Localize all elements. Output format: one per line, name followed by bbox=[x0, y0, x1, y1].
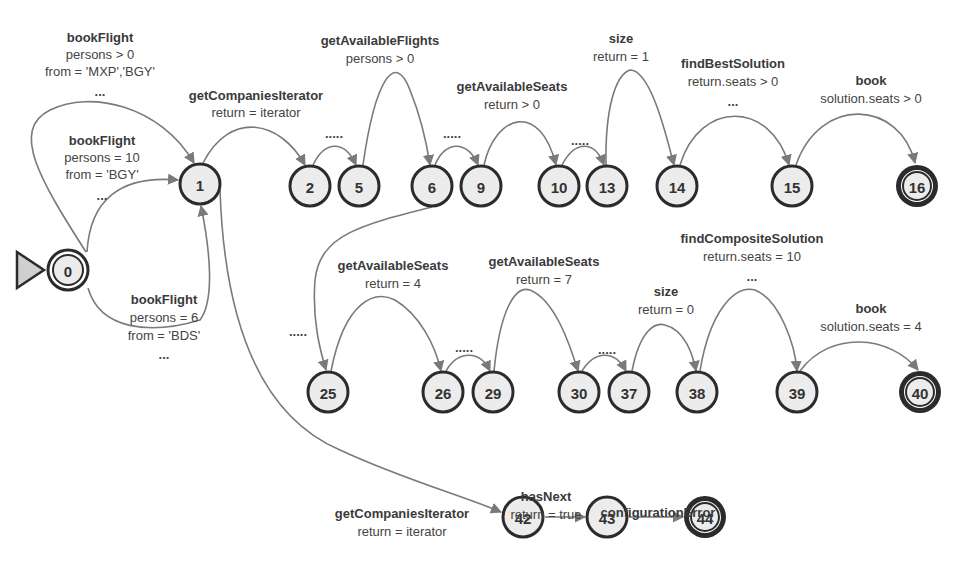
node-label: 40 bbox=[912, 385, 929, 402]
label-line: persons > 0 bbox=[346, 51, 414, 66]
node-label: 16 bbox=[909, 179, 926, 196]
state-node-10: 10 bbox=[539, 166, 579, 206]
label-line: return = iterator bbox=[357, 524, 447, 539]
label-line: return = 1 bbox=[593, 49, 649, 64]
ellipsis-10-13: ..... bbox=[571, 133, 589, 148]
state-node-15: 15 bbox=[772, 166, 812, 206]
ellipsis-30-37: ..... bbox=[598, 342, 616, 357]
label-title: book bbox=[855, 301, 887, 316]
state-node-39: 39 bbox=[777, 372, 817, 412]
state-node-38: 38 bbox=[677, 372, 717, 412]
label-line: persons = 6 bbox=[130, 310, 198, 325]
edge-25-26 bbox=[331, 297, 441, 371]
label-line: ... bbox=[159, 347, 170, 362]
label-line: ... bbox=[747, 269, 758, 284]
node-label: 26 bbox=[435, 385, 452, 402]
state-node-2: 2 bbox=[290, 166, 330, 206]
node-label: 13 bbox=[599, 179, 616, 196]
state-node-14: 14 bbox=[657, 166, 697, 206]
label-title: getCompaniesIterator bbox=[335, 506, 469, 521]
state-node-26: 26 bbox=[423, 372, 463, 412]
edge-14-15 bbox=[680, 116, 789, 165]
label-title: bookFlight bbox=[69, 133, 136, 148]
label-line: return = 4 bbox=[365, 276, 421, 291]
node-label: 39 bbox=[789, 385, 806, 402]
node-label: 2 bbox=[306, 179, 314, 196]
state-node-29: 29 bbox=[473, 372, 513, 412]
label-line: solution.seats = 4 bbox=[820, 319, 922, 334]
state-node-6: 6 bbox=[412, 166, 452, 206]
edge-2-5 bbox=[313, 146, 356, 165]
label-getcompaniesiterator-top: getCompaniesIterator return = iterator bbox=[189, 88, 323, 120]
label-line: persons = 10 bbox=[64, 150, 140, 165]
ellipsis-26-29: ..... bbox=[455, 340, 473, 355]
label-bookflight-mxp: bookFlight persons > 0 from = 'MXP','BGY… bbox=[45, 30, 155, 99]
node-label: 38 bbox=[689, 385, 706, 402]
label-book-gt0: book solution.seats > 0 bbox=[820, 73, 922, 106]
edge-37-38 bbox=[632, 324, 696, 371]
state-node-9: 9 bbox=[461, 166, 501, 206]
state-node-13: 13 bbox=[587, 166, 627, 206]
label-title: book bbox=[855, 73, 887, 88]
node-label: 25 bbox=[320, 385, 337, 402]
label-getavailableseats-gt0: getAvailableSeats return > 0 bbox=[457, 79, 568, 112]
label-title: size bbox=[654, 284, 679, 299]
label-line: ... bbox=[95, 84, 106, 99]
node-label: 0 bbox=[64, 263, 72, 280]
state-diagram: 01256910131415162526293037383940424344 b… bbox=[0, 0, 980, 574]
ellipsis-2-5: ..... bbox=[325, 126, 343, 141]
label-title: findBestSolution bbox=[681, 56, 785, 71]
label-line: return = true bbox=[510, 507, 581, 522]
label-line: return = 0 bbox=[638, 302, 694, 317]
nodes: 01256910131415162526293037383940424344 bbox=[48, 164, 941, 538]
node-label: 10 bbox=[551, 179, 568, 196]
label-getavailableseats-4: getAvailableSeats return = 4 bbox=[338, 258, 449, 291]
label-getavailableflights: getAvailableFlights persons > 0 bbox=[321, 33, 440, 66]
node-label: 15 bbox=[784, 179, 801, 196]
label-line: from = 'BGY' bbox=[65, 167, 138, 182]
label-line: return > 0 bbox=[484, 97, 540, 112]
label-title: size bbox=[609, 31, 634, 46]
node-label: 14 bbox=[669, 179, 686, 196]
state-node-5: 5 bbox=[339, 166, 379, 206]
edge-9-10 bbox=[484, 122, 556, 165]
label-findcompositesolution: findCompositeSolution return.seats = 10 … bbox=[681, 231, 824, 284]
label-findbestsolution: findBestSolution return.seats > 0 ... bbox=[681, 56, 785, 109]
label-line: return.seats = 10 bbox=[703, 249, 801, 264]
edge-6-9 bbox=[435, 146, 478, 165]
edge-1-2 bbox=[203, 127, 305, 165]
label-getcompaniesiterator-bottom: getCompaniesIterator return = iterator bbox=[335, 506, 469, 539]
node-label: 30 bbox=[571, 385, 588, 402]
label-line: return = 7 bbox=[516, 272, 572, 287]
node-label: 29 bbox=[485, 385, 502, 402]
label-line: from = 'MXP','BGY' bbox=[45, 64, 155, 79]
node-label: 37 bbox=[621, 385, 638, 402]
edge-15-16 bbox=[796, 114, 915, 165]
label-getavailableseats-7: getAvailableSeats return = 7 bbox=[489, 254, 600, 287]
label-book-4: book solution.seats = 4 bbox=[820, 301, 922, 334]
label-line: from = 'BDS' bbox=[128, 328, 201, 343]
label-title: getAvailableSeats bbox=[338, 258, 449, 273]
state-node-30: 30 bbox=[559, 372, 599, 412]
edge-39-40 bbox=[800, 342, 918, 371]
node-label: 6 bbox=[428, 179, 436, 196]
label-title: hasNext bbox=[521, 489, 572, 504]
label-line: persons > 0 bbox=[66, 47, 134, 62]
edge-38-39 bbox=[700, 289, 797, 371]
label-bookflight-bgy: bookFlight persons = 10 from = 'BGY' ... bbox=[64, 133, 140, 203]
start-marker-icon bbox=[17, 252, 44, 288]
edge-13-14 bbox=[606, 70, 674, 165]
label-line: ... bbox=[728, 94, 739, 109]
node-label: 5 bbox=[355, 179, 363, 196]
label-configurationerror: configurationError bbox=[601, 505, 716, 520]
edge-5-6 bbox=[363, 72, 430, 165]
ellipsis-6-25: ..... bbox=[289, 324, 307, 339]
edge-labels: bookFlight persons > 0 from = 'MXP','BGY… bbox=[45, 30, 922, 539]
node-label: 9 bbox=[477, 179, 485, 196]
state-node-25: 25 bbox=[308, 372, 348, 412]
state-node-1: 1 bbox=[180, 164, 220, 204]
edge-26-29 bbox=[446, 355, 490, 371]
label-title: configurationError bbox=[601, 505, 716, 520]
state-node-40: 40 bbox=[899, 371, 941, 413]
label-title: getAvailableSeats bbox=[457, 79, 568, 94]
